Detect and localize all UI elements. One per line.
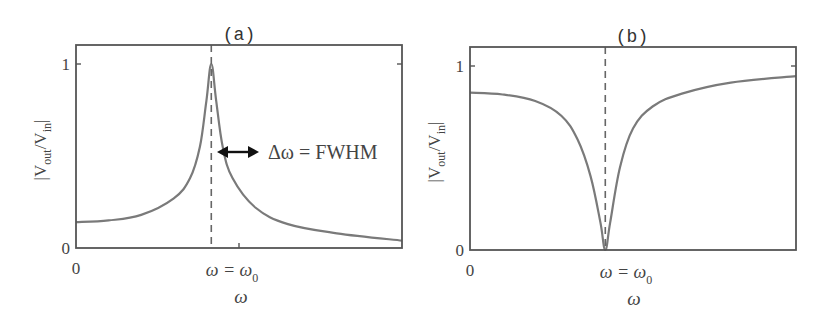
panel-b-ylabel: |Vout/Vin|	[425, 122, 448, 183]
panel-b-ytick-label-0: 0	[456, 241, 465, 260]
panel-b-xlabel: ω	[627, 288, 640, 309]
panel-a: (a) 1 0 0 ω = ω0 ω |Vout/Vin| Δω = FWHM	[31, 25, 402, 307]
panel-b: (b) 1 0 0 ω = ω0 ω |Vout/Vin|	[425, 27, 796, 309]
panel-b-title: (b)	[616, 27, 648, 47]
panel-b-xtick-label-w0: ω = ω0	[600, 262, 653, 287]
panel-a-ytick-label-1: 1	[62, 55, 71, 74]
panel-b-curve	[470, 76, 796, 250]
panel-a-ylabel: |Vout/Vin|	[31, 120, 54, 181]
panel-a-ytick-label-0: 0	[62, 239, 71, 258]
panel-a-xlabel: ω	[234, 286, 247, 307]
fwhm-annotation: Δω = FWHM	[268, 141, 378, 163]
panel-b-xtick-label-0: 0	[466, 261, 475, 280]
panel-b-ytick-label-1: 1	[456, 57, 465, 76]
panel-a-title: (a)	[223, 25, 255, 45]
panel-a-xtick-label-w0: ω = ω0	[206, 260, 259, 285]
panel-b-axes-box	[470, 47, 796, 250]
figure: (a) 1 0 0 ω = ω0 ω |Vout/Vin| Δω = FWHM …	[0, 0, 814, 319]
panel-a-xtick-label-0: 0	[72, 259, 81, 278]
